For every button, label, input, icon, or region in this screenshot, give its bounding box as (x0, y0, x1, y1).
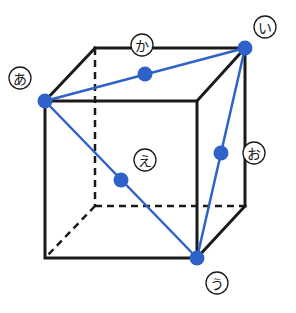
label-text: か (135, 38, 149, 54)
point-dot-a (38, 94, 53, 109)
label-text: お (247, 146, 261, 162)
edge-top-left-depth (45, 48, 95, 101)
cube-diagram: あいうえおか (0, 0, 296, 313)
point-dot-o (214, 146, 229, 161)
point-dot-ka (138, 67, 153, 82)
point-label-ka: か (131, 34, 153, 56)
point-label-a: あ (9, 67, 31, 89)
label-text: い (258, 20, 272, 36)
label-text: あ (13, 71, 27, 87)
point-label-u: う (206, 272, 228, 294)
point-dot-e (114, 173, 129, 188)
label-text: え (138, 153, 152, 169)
label-text: う (210, 276, 224, 292)
point-label-e: え (134, 149, 156, 171)
hidden-edge-bottom-left-depth (45, 206, 95, 258)
point-label-i: い (254, 16, 276, 38)
point-label-o: お (243, 142, 265, 164)
cube-diagram-svg: あいうえおか (0, 0, 296, 313)
point-dot-u (190, 251, 205, 266)
point-dot-i (238, 41, 253, 56)
